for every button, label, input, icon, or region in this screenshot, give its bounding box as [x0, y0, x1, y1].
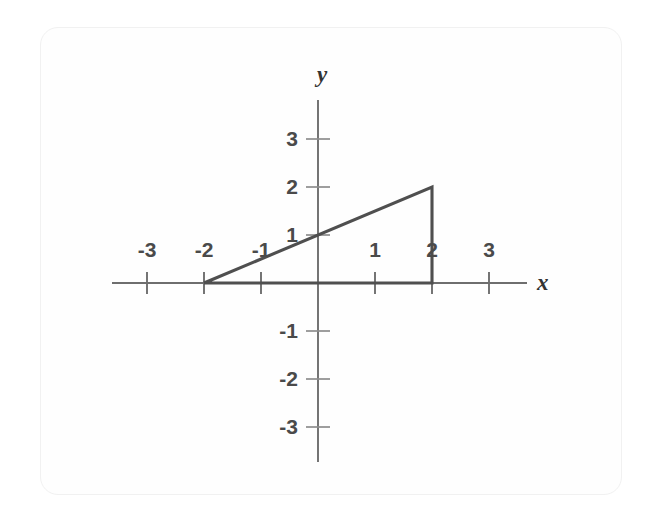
y-tick-label-2: 2: [286, 175, 298, 198]
y-tick-label--3: -3: [279, 415, 298, 438]
figure-root: -3-2-1123321-1-2-3 x y: [0, 0, 652, 520]
y-tick-label--1: -1: [279, 319, 298, 342]
x-tick-label-3: 3: [483, 238, 495, 261]
cartesian-graph: -3-2-1123321-1-2-3 x y: [0, 0, 652, 520]
x-tick-label-1: 1: [369, 238, 381, 261]
x-tick-label--2: -2: [195, 238, 214, 261]
x-tick-label--1: -1: [252, 238, 271, 261]
x-tick-label-2: 2: [426, 238, 438, 261]
y-tick-label--2: -2: [279, 367, 298, 390]
x-tick-label--3: -3: [138, 238, 157, 261]
y-tick-label-3: 3: [286, 127, 298, 150]
y-axis-label: y: [314, 62, 328, 87]
x-axis-label: x: [536, 270, 549, 295]
y-tick-label-1: 1: [286, 223, 298, 246]
axes-group: [112, 100, 527, 462]
